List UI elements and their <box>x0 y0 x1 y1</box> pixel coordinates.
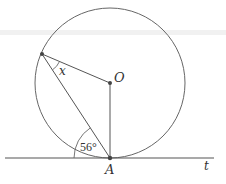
label-angle-56: 56° <box>80 140 97 154</box>
scan-artifact-band <box>0 30 226 35</box>
segment-PA <box>42 54 110 158</box>
label-angle-x: x <box>59 64 66 78</box>
label-O: O <box>114 70 125 85</box>
segment-PO <box>42 54 110 83</box>
point-P <box>40 52 44 56</box>
label-t: t <box>204 159 209 173</box>
geometry-diagram: O A t x 56° <box>0 0 226 184</box>
point-O <box>108 81 112 85</box>
label-A: A <box>104 162 114 177</box>
point-A <box>108 156 112 160</box>
